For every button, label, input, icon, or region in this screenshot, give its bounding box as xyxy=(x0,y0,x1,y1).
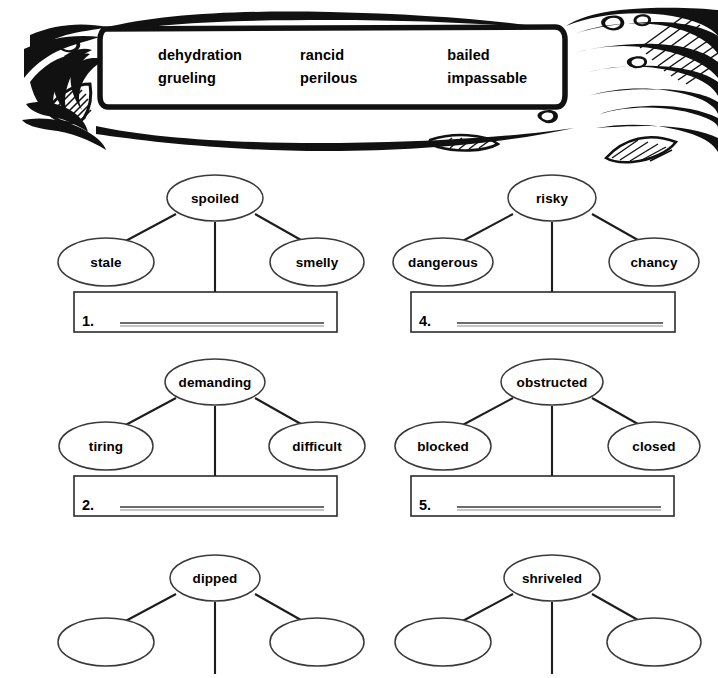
word-bank-word: bailed xyxy=(447,46,527,65)
word-bank-column-1: dehydration grueling xyxy=(158,46,242,88)
web-right-label: chancy xyxy=(630,255,677,270)
web-right-label: smelly xyxy=(296,255,339,270)
web-center-label: dipped xyxy=(193,571,238,586)
web-left-label: tiring xyxy=(89,439,123,454)
left-oval xyxy=(395,618,491,666)
answer-number: 5. xyxy=(419,497,431,513)
word-bank-word: dehydration xyxy=(158,46,242,65)
word-web-1: spoiled stale smelly 1. xyxy=(58,172,358,347)
word-bank-banner: dehydration grueling rancid perilous bai… xyxy=(0,0,718,175)
answer-number: 1. xyxy=(82,313,94,329)
word-web-4: risky dangerous chancy 4. xyxy=(395,172,695,347)
word-web-2: demanding tiring difficult 2. xyxy=(58,356,358,531)
word-web-6: shriveled xyxy=(395,552,695,678)
word-bank-word: grueling xyxy=(158,69,242,88)
web-center-label: shriveled xyxy=(522,571,582,586)
web-center-label: spoiled xyxy=(191,191,239,206)
word-bank-word: rancid xyxy=(300,46,357,65)
word-bank-column-3: bailed impassable xyxy=(447,46,527,88)
web-right-label: difficult xyxy=(292,439,342,454)
right-oval xyxy=(607,618,701,666)
word-bank-word: perilous xyxy=(300,69,357,88)
word-bank-word: impassable xyxy=(447,69,527,88)
web-center-label: obstructed xyxy=(517,375,588,390)
web-left-label: dangerous xyxy=(408,255,478,270)
web-left-label: blocked xyxy=(417,439,469,454)
word-web-3: dipped xyxy=(58,552,358,678)
answer-number: 4. xyxy=(419,313,431,329)
web-center-label: risky xyxy=(536,191,568,206)
right-oval xyxy=(270,618,364,666)
answer-number: 2. xyxy=(82,497,94,513)
word-bank-word-list: dehydration grueling rancid perilous bai… xyxy=(100,26,565,108)
word-bank-column-2: rancid perilous xyxy=(300,46,357,88)
word-web-5: obstructed blocked closed 5. xyxy=(395,356,695,531)
left-oval xyxy=(58,618,154,666)
web-center-label: demanding xyxy=(179,375,252,390)
web-right-label: closed xyxy=(632,439,675,454)
web-left-label: stale xyxy=(90,255,121,270)
